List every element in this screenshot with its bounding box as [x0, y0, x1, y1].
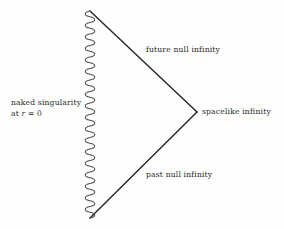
singularity-squiggle-line: [85, 11, 94, 218]
label-past-null-infinity: past null infinity: [146, 170, 212, 181]
penrose-diagram-figure: naked singularity at r = 0 future null i…: [0, 0, 284, 229]
future-null-infinity-line: [90, 11, 197, 112]
label-spacelike-infinity: spacelike infinity: [202, 107, 271, 118]
label-radius-prefix: at: [11, 109, 22, 118]
label-radius-suffix: = 0: [25, 109, 42, 118]
label-naked-singularity: naked singularity at r = 0: [11, 98, 81, 119]
label-naked-singularity-line1: naked singularity: [11, 98, 81, 109]
label-future-null-infinity: future null infinity: [146, 45, 220, 56]
past-null-infinity-line: [90, 112, 197, 218]
label-naked-singularity-line2: at r = 0: [11, 109, 81, 120]
